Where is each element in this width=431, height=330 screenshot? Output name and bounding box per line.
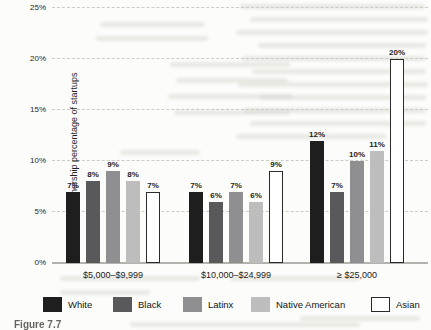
y-tick-label-20: 20% xyxy=(14,54,46,63)
bar-black xyxy=(86,181,100,263)
legend-item-asian: Asian xyxy=(371,297,420,312)
y-tick-label-0: 0% xyxy=(14,258,46,267)
bar-value-label: 20% xyxy=(389,48,405,57)
bar-cell: 6% xyxy=(209,202,223,263)
y-tick-label-5: 5% xyxy=(14,207,46,216)
legend-label: Asian xyxy=(396,299,420,310)
legend-swatch xyxy=(113,297,132,312)
bleed-through-smudge xyxy=(300,316,420,321)
bar-native-american xyxy=(126,181,140,263)
legend-label: Black xyxy=(138,299,161,310)
legend-label: Latinx xyxy=(208,299,233,310)
bar-value-label: 7% xyxy=(230,181,242,190)
bar-value-label: 8% xyxy=(87,170,99,179)
figure-caption: Figure 7.7 xyxy=(14,319,61,330)
bar-value-label: 10% xyxy=(349,150,365,159)
y-tick-label-15: 15% xyxy=(14,105,46,114)
bar-value-label: 8% xyxy=(127,170,139,179)
bar-cell: 6% xyxy=(249,202,263,263)
bar-group-2: 7%6%7%6%9% xyxy=(189,171,283,263)
scanned-page: Ownership percentage of startups 7%8%9%8… xyxy=(0,0,431,330)
bar-black xyxy=(209,202,223,263)
legend-swatch xyxy=(371,297,390,312)
y-axis-title: Ownership percentage of startups xyxy=(69,60,79,220)
plot-area: Ownership percentage of startups 7%8%9%8… xyxy=(52,8,428,263)
bar-value-label: 9% xyxy=(107,160,119,169)
legend-item-latinx: Latinx xyxy=(183,297,233,312)
bar-cell: 7% xyxy=(229,192,243,263)
bar-cell: 8% xyxy=(86,181,100,263)
bar-value-label: 7% xyxy=(331,181,343,190)
bar-asian xyxy=(146,192,160,263)
legend-label: White xyxy=(68,299,92,310)
legend-swatch xyxy=(183,297,202,312)
bar-cell: 7% xyxy=(330,192,344,263)
bar-cell: 8% xyxy=(126,181,140,263)
bar-cell: 11% xyxy=(370,151,384,263)
bar-cell: 7% xyxy=(189,192,203,263)
legend-label: Native American xyxy=(276,299,345,310)
y-tick-label-25: 25% xyxy=(14,3,46,12)
bar-cell: 9% xyxy=(106,171,120,263)
bleed-through-smudge xyxy=(60,290,150,295)
bar-asian xyxy=(390,59,404,263)
bar-value-label: 12% xyxy=(309,130,325,139)
x-category-label-3: ≥ $25,000 xyxy=(292,270,422,280)
legend-item-black: Black xyxy=(113,297,161,312)
bar-latinx xyxy=(350,161,364,263)
legend-swatch xyxy=(251,297,270,312)
bar-asian xyxy=(269,171,283,263)
y-tick-label-10: 10% xyxy=(14,156,46,165)
bar-group-1: 7%8%9%8%7% xyxy=(66,171,160,263)
x-category-label-2: $10,000–$24,999 xyxy=(171,270,301,280)
bar-value-label: 11% xyxy=(369,140,385,149)
legend-swatch xyxy=(43,297,62,312)
bar-black xyxy=(330,192,344,263)
bar-group-3: 12%7%10%11%20% xyxy=(310,59,404,263)
bar-native-american xyxy=(249,202,263,263)
bar-cell: 10% xyxy=(350,161,364,263)
bar-latinx xyxy=(106,171,120,263)
bar-latinx xyxy=(229,192,243,263)
bleed-through-smudge xyxy=(130,322,360,327)
bar-cell: 7% xyxy=(146,192,160,263)
legend-item-white: White xyxy=(43,297,92,312)
bar-native-american xyxy=(370,151,384,263)
x-category-label-1: $5,000–$9,999 xyxy=(48,270,178,280)
bar-value-label: 6% xyxy=(250,191,262,200)
bar-cell: 20% xyxy=(390,59,404,263)
bar-value-label: 9% xyxy=(270,160,282,169)
bar-value-label: 6% xyxy=(210,191,222,200)
bar-value-label: 7% xyxy=(147,181,159,190)
bar-white xyxy=(310,141,324,263)
legend-item-native-american: Native American xyxy=(251,297,345,312)
bar-cell: 12% xyxy=(310,141,324,263)
bar-white xyxy=(189,192,203,263)
bar-value-label: 7% xyxy=(190,181,202,190)
bar-cell: 9% xyxy=(269,171,283,263)
gridline-25 xyxy=(52,7,428,8)
